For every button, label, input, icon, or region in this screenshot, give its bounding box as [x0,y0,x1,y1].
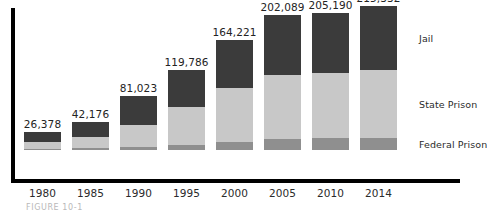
bar-2000[interactable]: 164,221 [216,40,253,150]
bar-1995[interactable]: 119,786 [168,70,205,150]
bar-value-label-2010: 205,190 [308,0,352,11]
bar-2010[interactable]: 205,190 [312,13,349,150]
bar-segment-jail-2005 [264,15,301,75]
bar-segment-state-1985 [72,137,109,149]
bar-segment-federal-1990 [120,147,157,150]
bar-segment-state-1995 [168,107,205,145]
bar-segment-federal-2000 [216,142,253,150]
bar-segment-federal-1980 [24,149,61,150]
x-tick-2005: 2005 [264,187,301,199]
bar-value-label-2005: 202,089 [260,2,304,13]
chart-plot-area: 26,37842,17681,023119,786164,221202,0892… [0,0,474,181]
bar-value-label-1995: 119,786 [164,57,208,68]
bar-segment-jail-2010 [312,13,349,73]
bar-1980[interactable]: 26,378 [24,132,61,150]
bar-segment-state-2010 [312,73,349,138]
bar-value-label-1990: 81,023 [120,83,157,94]
bar-segment-jail-1995 [168,70,205,107]
bar-segment-jail-2014 [360,6,397,70]
bar-value-label-2000: 164,221 [212,27,256,38]
bar-segment-federal-1985 [72,148,109,150]
bar-segment-federal-2005 [264,139,301,150]
x-tick-2014: 2014 [360,187,397,199]
x-axis-line [11,179,460,183]
x-tick-1995: 1995 [168,187,205,199]
bar-segment-state-2005 [264,75,301,139]
bar-segment-jail-1990 [120,96,157,125]
x-tick-1990: 1990 [120,187,157,199]
bar-1990[interactable]: 81,023 [120,96,157,150]
y-axis-line [11,8,15,181]
legend-label-jail[interactable]: Jail [419,33,433,44]
bar-segment-state-1980 [24,142,61,149]
bar-value-label-1980: 26,378 [24,119,61,130]
bar-segment-state-2000 [216,88,253,142]
figure-caption: FIGURE 10-1 [26,203,83,212]
bar-value-label-1985: 42,176 [72,109,109,120]
bar-segment-federal-2010 [312,138,349,150]
bar-segment-federal-2014 [360,138,397,150]
bar-segment-state-2014 [360,70,397,138]
legend-label-federal[interactable]: Federal Prison [419,139,487,150]
bar-2014[interactable]: 215,332 [360,6,397,150]
bar-2005[interactable]: 202,089 [264,15,301,150]
x-tick-2010: 2010 [312,187,349,199]
x-tick-1980: 1980 [24,187,61,199]
bar-segment-jail-2000 [216,40,253,87]
bar-segment-jail-1980 [24,132,61,142]
bar-segment-state-1990 [120,125,157,148]
bar-1985[interactable]: 42,176 [72,122,109,150]
bar-segment-jail-1985 [72,122,109,137]
x-tick-2000: 2000 [216,187,253,199]
legend-label-state[interactable]: State Prison [419,99,477,110]
bar-segment-federal-1995 [168,145,205,150]
x-tick-1985: 1985 [72,187,109,199]
bar-value-label-2014: 215,332 [356,0,400,4]
